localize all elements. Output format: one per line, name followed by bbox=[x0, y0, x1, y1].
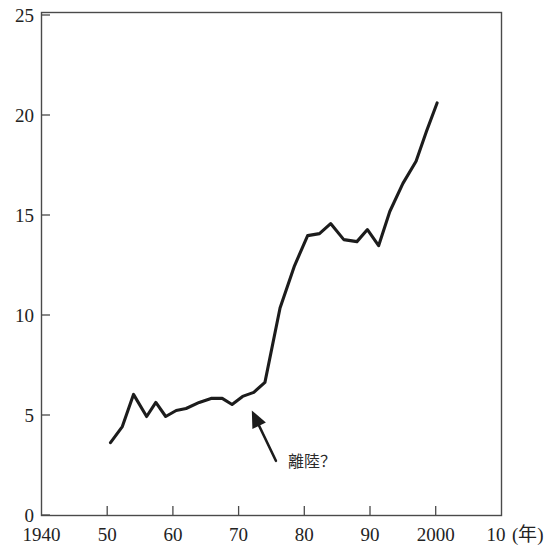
line-chart: 25 20 15 10 5 0 1940 50 60 70 80 90 2000… bbox=[0, 0, 558, 559]
x-tick-label-50: 50 bbox=[98, 524, 117, 545]
y-tick-label-25: 25 bbox=[15, 5, 34, 26]
y-tick-label-20: 20 bbox=[15, 105, 34, 126]
chart-background bbox=[0, 0, 558, 559]
y-tick-label-5: 5 bbox=[25, 405, 35, 426]
y-tick-label-10: 10 bbox=[15, 305, 34, 326]
y-tick-label-0: 0 bbox=[25, 505, 35, 526]
x-tick-label-60: 60 bbox=[163, 524, 182, 545]
x-tick-label-90: 90 bbox=[361, 524, 380, 545]
y-tick-label-15: 15 bbox=[15, 205, 34, 226]
x-tick-label-80: 80 bbox=[295, 524, 314, 545]
x-axis-unit-label: (年) bbox=[512, 524, 544, 546]
x-tick-label-70: 70 bbox=[229, 524, 248, 545]
annotation-label-takeoff: 離陸？ bbox=[288, 452, 336, 471]
x-tick-label-1940: 1940 bbox=[23, 524, 61, 545]
x-tick-label-10: 10 bbox=[487, 524, 506, 545]
chart-container: 25 20 15 10 5 0 1940 50 60 70 80 90 2000… bbox=[0, 0, 558, 559]
x-tick-label-2000: 2000 bbox=[417, 524, 455, 545]
